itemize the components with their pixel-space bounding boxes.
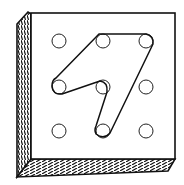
block-left-face [17, 12, 31, 177]
peg [139, 80, 153, 94]
peg [139, 124, 153, 138]
block-bottom-face [17, 159, 175, 177]
geoboard-drawing [0, 0, 184, 185]
geoboard-illustration [0, 0, 184, 185]
peg [96, 34, 110, 48]
peg [52, 34, 66, 48]
peg [52, 124, 66, 138]
